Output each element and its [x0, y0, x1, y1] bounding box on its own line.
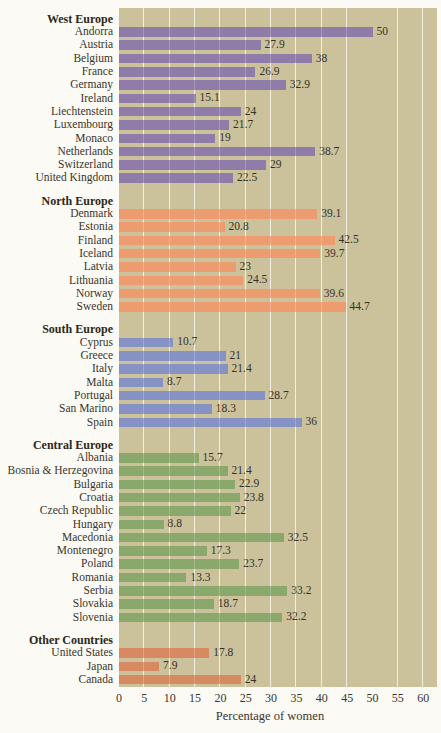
country-label: Luxembourg	[0, 119, 119, 131]
country-row: Estonia20.8	[0, 220, 441, 233]
country-row: United States17.8	[0, 646, 441, 659]
country-row: Germany32.9	[0, 78, 441, 91]
country-row: Latvia23	[0, 260, 441, 273]
value-bar: 23	[119, 262, 236, 272]
bar-track: 38.7	[119, 147, 441, 157]
bar-track: 7.9	[119, 662, 441, 672]
country-label: San Marino	[0, 403, 119, 415]
country-label: Greece	[0, 350, 119, 362]
value-label: 22	[235, 505, 247, 517]
value-bar: 8.8	[119, 520, 164, 530]
group-header: North Europe	[0, 195, 119, 207]
value-bar: 21.7	[119, 120, 229, 130]
bar-track: 21.4	[119, 466, 441, 476]
country-row: Andorra50	[0, 25, 441, 38]
value-label: 21	[230, 350, 242, 362]
country-row: Switzerland29	[0, 158, 441, 171]
value-bar: 13.3	[119, 573, 186, 583]
bar-track: 20.8	[119, 222, 441, 232]
country-row: Denmark39.1	[0, 207, 441, 220]
value-label: 32.9	[290, 79, 310, 91]
country-label: Japan	[0, 661, 119, 673]
value-label: 39.6	[324, 288, 344, 300]
bar-track: 8.7	[119, 378, 441, 388]
value-label: 21.4	[232, 363, 252, 375]
value-bar: 23.7	[119, 559, 239, 569]
bar-track: 23.7	[119, 559, 441, 569]
country-label: Bulgaria	[0, 479, 119, 491]
bar-track: 32.5	[119, 533, 441, 543]
value-bar: 20.8	[119, 222, 225, 232]
bar-track: 32.9	[119, 80, 441, 90]
value-bar: 29	[119, 160, 266, 170]
bar-track: 32.2	[119, 613, 441, 623]
value-label: 7.9	[163, 661, 177, 673]
country-row: Greece21	[0, 349, 441, 362]
value-label: 15.7	[203, 452, 223, 464]
country-label: Norway	[0, 288, 119, 300]
group-header-row: Other Countries	[0, 633, 441, 646]
country-label: Poland	[0, 558, 119, 570]
country-label: Iceland	[0, 248, 119, 260]
group-header: Central Europe	[0, 439, 119, 451]
value-label: 24.5	[247, 275, 267, 287]
value-label: 32.2	[286, 612, 306, 624]
group-header-row: West Europe	[0, 12, 441, 25]
country-row: Slovenia32.2	[0, 611, 441, 624]
bar-track: 22	[119, 506, 441, 516]
value-label: 15.1	[200, 93, 220, 105]
value-bar: 27.9	[119, 40, 261, 50]
country-row: Monaco19	[0, 132, 441, 145]
country-row: Liechtenstein24	[0, 105, 441, 118]
country-label: Germany	[0, 79, 119, 91]
country-label: Canada	[0, 674, 119, 686]
country-label: Monaco	[0, 133, 119, 145]
bar-track: 24	[119, 107, 441, 117]
bar-track: 23.8	[119, 493, 441, 503]
country-label: Macedonia	[0, 532, 119, 544]
bar-track: 24.5	[119, 276, 441, 286]
country-row: Montenegro17.3	[0, 544, 441, 557]
value-label: 23.8	[244, 492, 264, 504]
value-label: 33.2	[291, 585, 311, 597]
x-axis-tick: 15	[189, 692, 201, 704]
bar-track: 8.8	[119, 520, 441, 530]
group-header: West Europe	[0, 13, 119, 25]
country-row: Portugal28.7	[0, 389, 441, 402]
value-label: 17.3	[211, 545, 231, 557]
value-label: 36	[306, 417, 318, 429]
value-bar: 18.7	[119, 599, 214, 609]
value-bar: 17.8	[119, 648, 209, 658]
bar-track: 36	[119, 418, 441, 428]
country-row: Slovakia18.7	[0, 597, 441, 610]
country-row: Norway39.6	[0, 287, 441, 300]
bar-track: 15.1	[119, 94, 441, 104]
group-header: Other Countries	[0, 634, 119, 646]
country-row: Luxembourg21.7	[0, 118, 441, 131]
value-bar: 39.6	[119, 289, 320, 299]
value-label: 26.9	[259, 66, 279, 78]
bar-track: 38	[119, 54, 441, 64]
value-label: 13.3	[190, 572, 210, 584]
country-label: Finland	[0, 235, 119, 247]
value-label: 27.9	[265, 39, 285, 51]
country-label: Andorra	[0, 26, 119, 38]
value-bar: 32.5	[119, 533, 284, 543]
country-row: Japan7.9	[0, 660, 441, 673]
x-axis-tick: 35	[290, 692, 302, 704]
country-label: Serbia	[0, 585, 119, 597]
value-label: 19	[219, 133, 231, 145]
bar-track: 10.7	[119, 338, 441, 348]
group-header-row: Central Europe	[0, 438, 441, 451]
bar-track: 39.6	[119, 289, 441, 299]
country-row: Cyprus10.7	[0, 336, 441, 349]
value-label: 38	[316, 53, 328, 65]
value-bar: 24.5	[119, 276, 243, 286]
country-label: Albania	[0, 452, 119, 464]
country-row: United Kingdom22.5	[0, 172, 441, 185]
value-label: 22.5	[237, 172, 257, 184]
value-bar: 22	[119, 506, 231, 516]
bar-track: 23	[119, 262, 441, 272]
bar-track: 21	[119, 351, 441, 361]
value-label: 24	[245, 674, 257, 686]
